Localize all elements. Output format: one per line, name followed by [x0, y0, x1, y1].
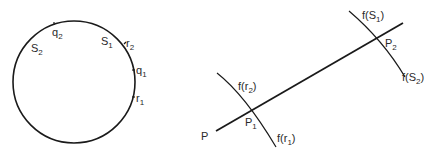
label-P1: P1	[245, 116, 257, 131]
label-q1: q1	[136, 64, 147, 79]
label-r1: r1	[136, 92, 145, 107]
label-r2: r2	[126, 37, 135, 52]
circle	[13, 21, 135, 143]
label-q2: q2	[52, 26, 63, 41]
label-f-S1: f(S1)	[362, 9, 384, 24]
label-f-r1: f(r1)	[277, 132, 296, 147]
line-figure: P P1 P2 f(r2) f(r1) f(S1) f(S2)	[201, 9, 424, 147]
label-f-S2: f(S2)	[402, 71, 424, 86]
label-S2: S2	[31, 42, 43, 57]
label-P: P	[201, 130, 208, 142]
label-S1: S1	[101, 35, 113, 50]
label-f-r2: f(r2)	[238, 80, 257, 95]
line-P	[216, 23, 403, 131]
circle-figure: q2 S2 S1 r2 q1 r1	[13, 21, 147, 143]
diagram-canvas: q2 S2 S1 r2 q1 r1 P P1 P2 f(r2) f(r1) f(…	[0, 0, 442, 162]
